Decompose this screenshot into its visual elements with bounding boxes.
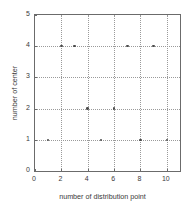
gridline-vertical <box>140 15 141 171</box>
x-axis-tick <box>114 169 115 172</box>
x-axis-tick-label: 6 <box>105 174 121 183</box>
data-point <box>86 107 89 110</box>
y-axis-tick-label: 0 <box>18 165 30 174</box>
gridline-horizontal <box>35 109 180 110</box>
gridline-vertical <box>167 15 168 171</box>
y-axis-tick <box>34 46 37 47</box>
plot-area <box>34 14 181 172</box>
x-axis-tick <box>167 169 168 172</box>
scatter-chart-figure: number of center 0246810 012345 number o… <box>0 0 190 210</box>
gridline-vertical <box>61 15 62 171</box>
x-axis-tick-label: 0 <box>26 174 42 183</box>
y-axis-tick-label: 1 <box>18 134 30 143</box>
x-axis-label: number of distribution point <box>20 192 185 201</box>
gridline-horizontal <box>35 77 180 78</box>
y-axis-tick <box>34 109 37 110</box>
y-axis-tick <box>34 15 37 16</box>
y-axis-tick-label: 4 <box>18 40 30 49</box>
gridline-horizontal <box>35 46 180 47</box>
gridline-vertical <box>88 15 89 171</box>
gridline-vertical <box>114 15 115 171</box>
y-axis-tick <box>34 77 37 78</box>
y-axis-tick <box>34 140 37 141</box>
x-axis-tick <box>88 169 89 172</box>
x-axis-tick-label: 8 <box>131 174 147 183</box>
x-axis-tick <box>61 169 62 172</box>
gridline-horizontal <box>35 140 180 141</box>
x-axis-tick-label: 2 <box>52 174 68 183</box>
x-axis-tick-label: 10 <box>158 174 174 183</box>
x-axis-tick-label: 4 <box>79 174 95 183</box>
y-axis-tick <box>34 171 37 172</box>
y-axis-tick-label: 2 <box>18 103 30 112</box>
data-point <box>139 139 142 142</box>
y-axis-label: number of center <box>9 8 21 178</box>
x-axis-tick <box>140 169 141 172</box>
y-axis-tick-label: 3 <box>18 71 30 80</box>
y-axis-tick-label: 5 <box>18 9 30 18</box>
